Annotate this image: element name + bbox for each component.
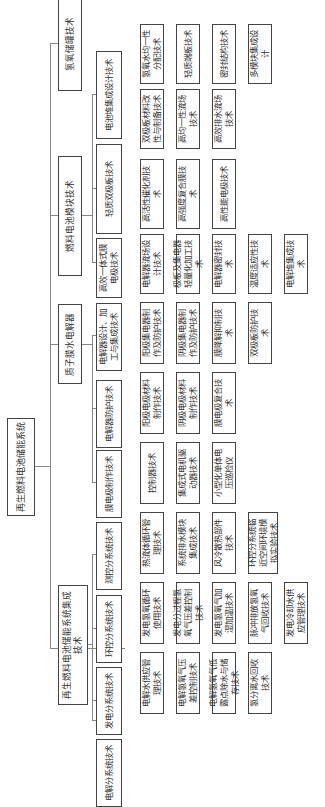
node-label: 轻质双极板技术 — [104, 161, 115, 217]
leaf-label: 高效排水流场技术 — [213, 93, 235, 145]
leaf-node: 集成式电机驱动器技术 — [176, 442, 200, 504]
leaf-node: 温度适应性技术 — [248, 234, 272, 294]
leaf-node: 电解器密封技术 — [212, 234, 236, 294]
node-power-generation: 发电分系统技术 — [96, 667, 122, 735]
leaf-label: 高均一性流场技术 — [177, 93, 199, 145]
node-label: 发电分系统技术 — [104, 673, 115, 729]
connector — [92, 95, 93, 263]
connector — [92, 336, 93, 483]
leaf-label: 高性能电极技术 — [219, 166, 230, 222]
leaf-label: 系统排水模块集成技术 — [177, 516, 199, 570]
leaf-node: 膜降解抑制技术 — [212, 302, 236, 364]
leaf-label: 电解氢氧气低露点除水与储存技术 — [208, 656, 241, 710]
leaf-label: 极板及集电器轻量化加工技术 — [172, 238, 205, 290]
leaf-node: 电解水供应管理技术 — [140, 652, 164, 714]
root-label: 再生燃料电池储能系统 — [16, 422, 27, 512]
leaf-node: 极板及集电器轻量化加工技术 — [176, 234, 200, 294]
leaf-node: 高性能电极技术 — [212, 159, 236, 229]
node-label: 电解分系统技术 — [104, 745, 115, 801]
leaf-label: 高活性催化剂技术 — [141, 163, 163, 225]
leaf-label: 发电分过程氢氧气压差控制技术 — [172, 586, 205, 640]
node-label: 高效一体式膜电极技术 — [98, 242, 120, 294]
connector — [82, 215, 92, 216]
node-label: 电解器防护技术 — [104, 386, 115, 442]
node-environment-control: 环控分系统技术 — [96, 595, 122, 663]
node-label: 再生燃料电池储能系统集成技术 — [62, 589, 84, 701]
leaf-node: 电解氢氧气低露点除水与储存技术 — [212, 652, 236, 714]
leaf-node: 脉冲排放氢氧气回收技术 — [248, 582, 272, 644]
connector — [50, 43, 58, 44]
leaf-node: 风冷散热部件技术 — [212, 512, 236, 574]
node-stack-integration-design: 电池堆集成设计技术 — [96, 51, 122, 139]
node-system-integration: 再生燃料电池储能系统集成技术 — [58, 585, 88, 705]
leaf-node: 电解氢氧气压差控制技术 — [176, 652, 200, 714]
leaf-label: 脉冲排放氢氧气回收技术 — [249, 586, 271, 640]
leaf-label: 氢分离水回收技术 — [249, 656, 271, 710]
node-label: 测控分系统技术 — [104, 528, 115, 584]
leaf-label: 风冷散热部件技术 — [213, 516, 235, 570]
root-node: 再生燃料电池储能系统 — [7, 418, 35, 516]
leaf-label: 高强度复合膜技术 — [177, 163, 199, 225]
leaf-label: 电解氢氧气压差控制技术 — [177, 656, 199, 710]
leaf-label: 多模块集成设计 — [249, 28, 271, 80]
connector — [82, 344, 92, 345]
leaf-node: 氢氧水均一性分配技术 — [140, 24, 164, 84]
leaf-label: 电解器流场设计技术 — [141, 238, 163, 290]
leaf-node: 阴极电极材料制作技术 — [176, 372, 200, 434]
leaf-node: 阳极电极材料制作技术 — [140, 372, 164, 434]
leaf-label: 氢氧水均一性分配技术 — [141, 28, 163, 80]
connector — [50, 344, 58, 345]
leaf-node: 双极板材料改性与制备技术 — [140, 89, 164, 149]
node-label: 膜电极制作技术 — [104, 456, 115, 512]
leaf-label: 电解水供应管理技术 — [141, 656, 163, 710]
leaf-node: 电解堆集成技术 — [284, 234, 308, 294]
leaf-node: 发电氢氧循环使用技术 — [140, 582, 164, 644]
leaf-node: 高均一性流场技术 — [176, 89, 200, 149]
node-label: 质子膜水电解器 — [65, 313, 76, 376]
leaf-node: 热流体循环管理技术 — [140, 512, 164, 574]
leaf-label: 双极板材料改性与制备技术 — [141, 93, 163, 145]
leaf-label: 膜电极复合技术 — [213, 376, 235, 430]
leaf-label: 密封结构技术 — [219, 30, 230, 78]
leaf-node: 系统排水模块集成技术 — [176, 512, 200, 574]
leaf-label: 电解器密封技术 — [213, 238, 235, 290]
leaf-label: 环控分系统临近空间环境模拟实验技术 — [247, 516, 280, 570]
leaf-label: 阴极集电器制作及防护技术 — [177, 306, 199, 360]
leaf-node: 高强度复合膜技术 — [176, 159, 200, 229]
node-integrated-mea: 高效一体式膜电极技术 — [96, 238, 122, 298]
leaf-label: 阳极电极材料制作技术 — [141, 376, 163, 430]
leaf-node: 发电氢氧气加湿加温技术 — [212, 582, 236, 644]
leaf-node: 阴极集电器制作及防护技术 — [176, 302, 200, 364]
leaf-node: 多模块集成设计 — [248, 24, 272, 84]
leaf-label: 膜降解抑制技术 — [213, 306, 235, 360]
leaf-node: 双极板防护技术 — [248, 302, 272, 364]
node-label: 氢氧储罐技术 — [65, 17, 76, 71]
leaf-node: 小型化单体电压巡检仪 — [212, 442, 236, 504]
leaf-node: 高效排水流场技术 — [212, 89, 236, 149]
node-measurement-control: 测控分系统技术 — [96, 522, 122, 590]
node-electrolyzer-design: 电解器设计、加工与集成技术 — [96, 303, 122, 371]
leaf-node: 电解器流场设计技术 — [140, 234, 164, 294]
connector — [50, 215, 58, 216]
leaf-label: 电解堆集成技术 — [285, 238, 307, 290]
leaf-node: 阳极集电器制作及防护技术 — [140, 302, 164, 364]
node-pem-electrolyzer: 质子膜水电解器 — [58, 304, 82, 384]
leaf-label: 阴极电极材料制作技术 — [177, 376, 199, 430]
node-label: 电池堆集成设计技术 — [104, 59, 115, 131]
leaf-label: 控制器技术 — [147, 453, 158, 493]
leaf-label: 温度适应性技术 — [249, 238, 271, 290]
leaf-label: 小型化单体电压巡检仪 — [213, 446, 235, 500]
leaf-label: 发电氢氧气加湿加温技术 — [213, 586, 235, 640]
leaf-node: 发电分过程氢氧气压差控制技术 — [176, 582, 200, 644]
connector — [92, 555, 93, 721]
leaf-label: 热流体循环管理技术 — [141, 516, 163, 570]
node-electrolysis-subsystem: 电解分系统技术 — [96, 739, 122, 807]
connector — [35, 466, 50, 467]
leaf-label: 轻质端板技术 — [183, 30, 194, 78]
node-fuel-cell-module: 燃料电池模块技术 — [58, 156, 82, 276]
leaf-label: 发电冷却水供应管理技术 — [285, 586, 307, 640]
leaf-node: 环控分系统临近空间环境模拟实验技术 — [248, 512, 278, 574]
node-label: 电解器设计、加工与集成技术 — [98, 307, 120, 367]
leaf-node: 密封结构技术 — [212, 24, 236, 84]
